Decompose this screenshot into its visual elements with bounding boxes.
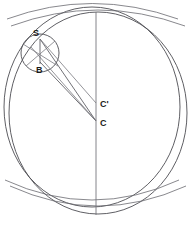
label-s: S: [33, 28, 39, 38]
ray-s-to-c: [40, 39, 96, 121]
upper-latitude-arc-secondary: [7, 4, 178, 20]
label-b: B: [36, 65, 43, 75]
diagram-canvas: S B C' C: [0, 0, 195, 228]
lower-latitude-arc-secondary: [5, 180, 179, 200]
label-c-prime: C': [100, 99, 109, 109]
label-c: C: [100, 118, 107, 128]
geometry-diagram: S B C' C: [0, 0, 195, 228]
lower-latitude-arc: [10, 186, 186, 206]
ray-tangent-lower: [31, 47, 96, 121]
